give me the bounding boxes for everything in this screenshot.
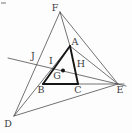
vertex-label-C: C xyxy=(74,84,81,95)
diagram-marks-layer xyxy=(1,2,65,73)
diagram-labels-layer: FAJIHGBCED xyxy=(4,2,123,129)
geometry-diagram: FAJIHGBCED xyxy=(0,0,132,133)
vertex-label-E: E xyxy=(117,84,124,95)
vertex-label-J: J xyxy=(30,50,35,61)
vertex-label-I: I xyxy=(49,55,53,66)
segment-F-A xyxy=(60,12,70,46)
vertex-label-F: F xyxy=(52,2,59,13)
edge-D-F xyxy=(14,12,60,116)
vertex-label-D: D xyxy=(4,118,12,129)
vertex-label-A: A xyxy=(71,36,79,47)
diagram-lines-layer xyxy=(8,12,126,116)
point-G-dot xyxy=(61,69,65,73)
geometry-figure-canvas: FAJIHGBCED xyxy=(0,0,132,133)
corner-artifact xyxy=(1,2,6,4)
edge-D-E xyxy=(14,84,118,116)
vertex-label-B: B xyxy=(38,84,45,95)
vertex-label-G: G xyxy=(53,70,61,81)
vertex-label-H: H xyxy=(77,58,85,69)
